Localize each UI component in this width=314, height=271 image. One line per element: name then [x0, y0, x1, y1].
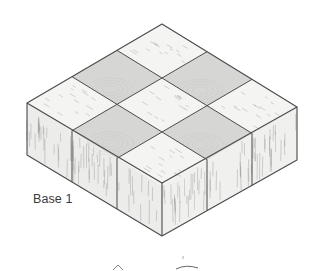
partial-drawing-marks — [113, 256, 198, 270]
figure-canvas: Base 1 — [0, 0, 314, 271]
isometric-cube-block — [0, 0, 314, 271]
figure-label: Base 1 — [33, 192, 73, 206]
